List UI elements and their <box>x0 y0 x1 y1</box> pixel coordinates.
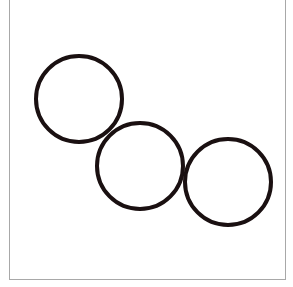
figure-canvas <box>0 0 293 287</box>
circle-2 <box>97 123 183 209</box>
circle-1 <box>36 56 122 142</box>
circles-diagram <box>0 0 293 287</box>
circle-3 <box>185 139 271 225</box>
